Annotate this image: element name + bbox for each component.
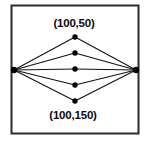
graph-figure: (100,50) (100,150) xyxy=(0,0,148,142)
left-apex-node xyxy=(11,67,17,73)
top-coordinate-label: (100,50) xyxy=(53,17,95,29)
middle-node-3 xyxy=(72,66,77,71)
middle-node-4 xyxy=(72,82,77,87)
figure-container: (100,50) (100,150) xyxy=(0,0,148,142)
bottom-coordinate-label: (100,150) xyxy=(49,109,97,121)
right-apex-node xyxy=(133,67,139,73)
middle-node-5 xyxy=(72,98,77,103)
middle-node-1 xyxy=(72,34,77,39)
middle-node-2 xyxy=(72,50,77,55)
